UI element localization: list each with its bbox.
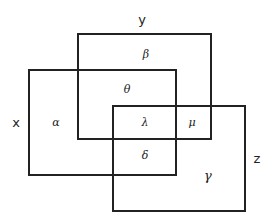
set-z-rect bbox=[113, 106, 245, 211]
region-delta: δ bbox=[142, 149, 149, 162]
region-mu: μ bbox=[188, 116, 195, 129]
set-label-y: y bbox=[138, 12, 146, 27]
venn-diagram: y x z α β θ λ μ δ γ bbox=[0, 0, 273, 223]
region-gamma: γ bbox=[204, 168, 212, 183]
set-label-x: x bbox=[12, 115, 20, 130]
region-theta: θ bbox=[124, 83, 131, 96]
region-alpha: α bbox=[52, 116, 60, 129]
set-x-rect bbox=[29, 70, 176, 175]
region-beta: β bbox=[142, 48, 149, 61]
set-label-z: z bbox=[254, 151, 261, 166]
region-lambda: λ bbox=[141, 116, 149, 129]
